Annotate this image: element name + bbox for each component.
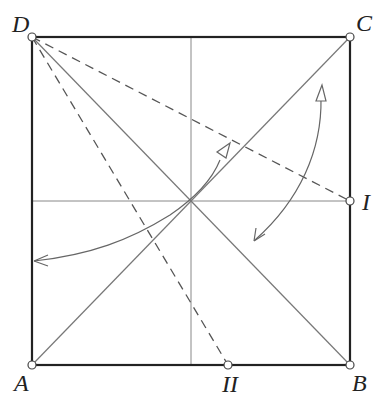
arrowhead-hollow-icon	[316, 85, 326, 101]
point-II	[224, 361, 232, 369]
point-B	[346, 361, 354, 369]
point-A	[28, 361, 36, 369]
label-A: A	[12, 370, 29, 396]
arrowhead-hollow-icon	[217, 143, 230, 158]
point-C	[346, 33, 354, 41]
fold-arrow-right	[254, 85, 326, 241]
label-D: D	[11, 11, 29, 37]
label-I: I	[361, 189, 371, 215]
label-C: C	[356, 10, 373, 36]
point-I	[346, 197, 354, 205]
label-II: II	[221, 371, 239, 397]
label-B: B	[352, 370, 367, 396]
origami-diagram: D C I A II B	[0, 0, 384, 413]
